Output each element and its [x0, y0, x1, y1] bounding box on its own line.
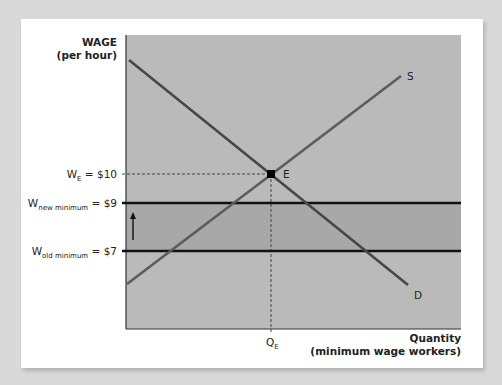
old-minimum-label: Wold minimum = $7 — [32, 245, 117, 260]
qe-label: QE — [266, 336, 279, 351]
shaded-band — [126, 203, 461, 251]
supply-label: S — [407, 70, 414, 82]
we-label: WE = $10 — [67, 168, 117, 183]
equilibrium-label: E — [283, 168, 290, 180]
y-axis-title: WAGE — [82, 36, 117, 48]
x-axis-subtitle: (minimum wage workers) — [310, 345, 461, 357]
demand-label: D — [414, 289, 422, 301]
new-minimum-label: Wnew minimum = $9 — [28, 197, 117, 212]
y-axis-subtitle: (per hour) — [57, 49, 117, 61]
x-axis-title: Quantity — [410, 332, 462, 344]
equilibrium-point — [267, 170, 275, 178]
supply-demand-chart: WAGE (per hour) WE = $10 Wnew minimum = … — [0, 0, 502, 385]
